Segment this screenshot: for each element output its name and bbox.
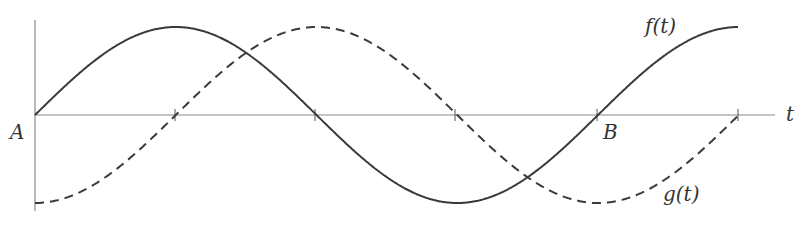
label-g-of-t: g(t): [663, 182, 699, 206]
label-a: A: [8, 120, 24, 144]
waveform-diagram: A B t f(t) g(t): [0, 0, 803, 227]
label-f-of-t: f(t): [643, 14, 676, 38]
label-b: B: [602, 120, 618, 144]
label-t-axis: t: [786, 102, 795, 126]
